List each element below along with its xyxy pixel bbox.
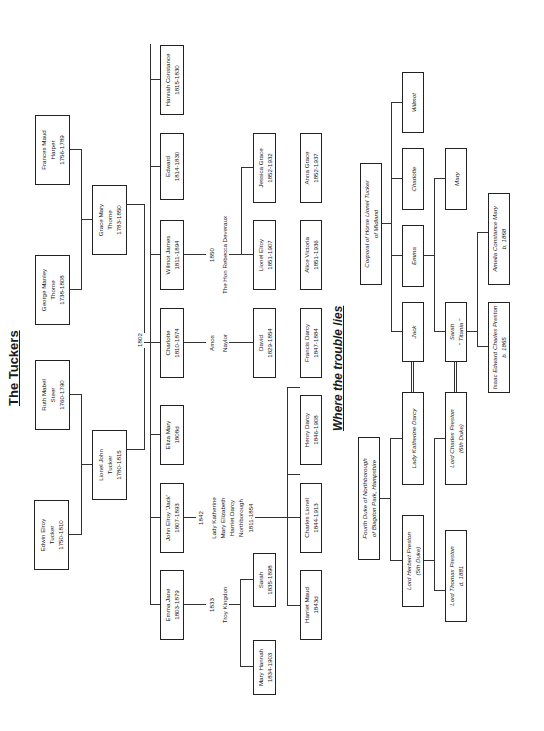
person-name: Eliza Mary xyxy=(163,421,172,450)
connector xyxy=(434,438,445,439)
person-title: (6th Duke) xyxy=(456,424,465,453)
person-surname: Thorne xyxy=(105,210,114,230)
person-lord-charles-preston: Lord Charles Preston (6th Duke) xyxy=(445,392,467,485)
person-francis-darcy: Francis Darcy 1847-1884 xyxy=(300,308,322,378)
person-surname: Thorne xyxy=(48,280,57,300)
person-frances-maud-harper: Frances Maud Harper 1756-1789 xyxy=(35,115,70,185)
person-dates: 1843d xyxy=(311,596,320,613)
connector xyxy=(390,438,391,561)
marriage-year-jack: 1842 xyxy=(196,508,205,528)
connector xyxy=(467,331,477,332)
person-edward: Edward 1814-1830 xyxy=(160,133,184,200)
connector xyxy=(391,255,402,256)
connector xyxy=(127,204,145,205)
person-david: David 1829-1854 xyxy=(253,308,276,378)
person-dates: 1815-1830 xyxy=(172,65,181,95)
person-lord-thomas-preston: Lord Thomas Preston d. 1881 xyxy=(445,530,467,622)
person-name: Henry Darcy xyxy=(302,413,311,447)
connector xyxy=(287,387,300,388)
person-dates: 1738-1808 xyxy=(57,275,66,305)
connector xyxy=(434,331,445,332)
person-emma-jane: Emma Jane 1803-1879 xyxy=(160,570,184,640)
connector xyxy=(150,254,160,255)
connector xyxy=(150,166,160,167)
person-fourth-duke-of-northborough: Fourth Duke of Northborough of Blagdon P… xyxy=(358,437,380,560)
spouse-katherine-line2: Mary Elizabeth xyxy=(218,488,227,548)
person-alice-victoria: Alice Victoria 1851-1936 xyxy=(300,220,322,290)
children-bar xyxy=(150,44,151,605)
connector xyxy=(390,560,402,561)
connector xyxy=(150,517,160,518)
person-name: Ruth Mabel xyxy=(39,379,48,411)
spouse-katherine-line3: Harriet Darcy xyxy=(227,488,236,548)
person-name: David xyxy=(256,335,265,351)
person-name: George Manley xyxy=(39,269,48,311)
connector xyxy=(434,178,445,179)
person-name: Charlotte xyxy=(163,330,172,355)
spouse-rebecca-deveraux: The Hon Rebecca Deveraux xyxy=(220,210,229,300)
person-charlotte-trouble: Charlotte xyxy=(402,148,424,210)
person-dates: 1783-1850 xyxy=(114,205,123,235)
person-name: Charles Lionel xyxy=(302,498,311,538)
connector xyxy=(241,167,253,168)
person-name: Isaac Edward Charles Preston xyxy=(490,306,499,390)
person-dates: 1750-1810 xyxy=(56,520,65,550)
person-lady-katherine-darcy: Lady Katherine Darcy xyxy=(402,392,424,485)
person-grace-mary-thorne: Grace Mary Thorne 1783-1850 xyxy=(92,185,127,255)
marriage-year-emma: 1833 xyxy=(207,595,216,615)
person-name: Jack xyxy=(409,326,418,339)
person-name: Sarah xyxy=(447,324,456,341)
person-surname: Tucker xyxy=(105,456,114,475)
person-name: Anna Grace xyxy=(302,151,311,184)
person-name: Wilmot xyxy=(409,93,418,112)
person-name: Lord Herbert Preston xyxy=(404,532,413,590)
person-dates: 1835-1898 xyxy=(265,565,274,595)
connector xyxy=(81,219,92,220)
person-isaac-edward-charles-preston: Isaac Edward Charles Preston b. 1865 xyxy=(488,302,510,393)
person-name: Emma xyxy=(409,247,418,265)
person-dates: 1811-1894 xyxy=(172,240,181,269)
person-dates: 1807-1893 xyxy=(172,503,181,533)
person-wilmot-james: Wilmot James 1811-1894 xyxy=(160,220,184,290)
person-nickname: " Titania " xyxy=(456,319,465,345)
person-name: Hannah Constance xyxy=(163,54,172,107)
connector xyxy=(477,232,478,347)
connector xyxy=(241,167,242,255)
marriage-year: 1802 xyxy=(135,330,144,350)
connector xyxy=(184,517,196,518)
person-name: Edwin Elroy xyxy=(38,519,47,552)
person-name: Edward xyxy=(163,156,172,177)
connector xyxy=(255,517,287,518)
connector xyxy=(81,464,92,465)
person-edwin-elroy-tucker: Edwin Elroy Tucker 1750-1810 xyxy=(34,500,69,570)
person-dates: 1803-1879 xyxy=(172,590,181,620)
connector xyxy=(391,102,392,332)
person-name: Lionel John xyxy=(96,449,105,481)
connector xyxy=(184,342,206,343)
person-dates: 1829-1854 xyxy=(265,328,274,358)
person-henry-darcy: Henry Darcy 1846-1908 xyxy=(300,395,322,465)
person-name: Francis Darcy xyxy=(302,324,311,362)
person-sarah-titania: Sarah " Titania " xyxy=(445,302,467,362)
connector xyxy=(477,232,488,233)
spouse-amos-naylor-line2: Naylor xyxy=(220,328,229,358)
person-dates: 1810-1874 xyxy=(172,328,181,358)
person-name: Mary Hannah xyxy=(256,649,265,686)
person-dates: 1814-1830 xyxy=(172,152,181,182)
person-dates: d. 1881 xyxy=(456,566,465,587)
person-name: Corporal of Horse Lionel Tucker xyxy=(362,180,371,267)
person-title: of Midland xyxy=(371,210,380,239)
connector xyxy=(229,342,253,343)
connector xyxy=(150,604,160,605)
connector xyxy=(287,474,300,475)
person-anna-grace: Anna Grace 1852-1937 xyxy=(300,133,322,203)
person-jack: Jack xyxy=(402,302,424,362)
connector xyxy=(391,102,402,103)
connector xyxy=(391,331,402,332)
person-surname: Steer xyxy=(48,388,57,403)
spouse-troy-kingdon: Troy Kingdon xyxy=(220,575,229,635)
connector xyxy=(184,604,206,605)
connector xyxy=(150,79,160,80)
person-title: (5th Duke) xyxy=(413,547,422,576)
page-title: The Tuckers xyxy=(6,330,21,406)
